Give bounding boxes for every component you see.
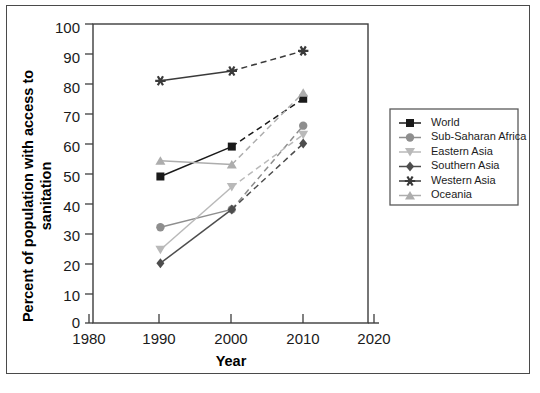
x-tick-label: 2000 bbox=[214, 330, 247, 347]
x-tick-label: 1980 bbox=[72, 330, 105, 347]
data-point-triangle-down bbox=[155, 246, 165, 255]
x-tick-label: 2020 bbox=[357, 330, 390, 347]
data-point-triangle-up bbox=[298, 88, 308, 97]
y-tick-label: 80 bbox=[63, 79, 80, 96]
series-segment bbox=[160, 71, 231, 81]
data-point-star bbox=[298, 46, 308, 55]
x-tick-label: 1990 bbox=[142, 330, 175, 347]
data-point-circle bbox=[156, 223, 164, 231]
x-tick-labels: 1980 1990 2000 2010 2020 bbox=[72, 330, 390, 347]
chart-page: Percent of population with access to san… bbox=[0, 0, 540, 393]
y-tick-label: 90 bbox=[63, 49, 80, 66]
data-point-square bbox=[406, 119, 414, 127]
y-tick-label: 30 bbox=[63, 227, 80, 244]
series-segment bbox=[232, 126, 303, 210]
series-oceania bbox=[155, 88, 308, 168]
series-segment bbox=[232, 135, 303, 187]
data-point-circle bbox=[299, 121, 307, 129]
data-point-star bbox=[227, 66, 237, 75]
y-axis-title-line1: Percent of population with access to bbox=[20, 70, 36, 322]
y-tick-label: 20 bbox=[63, 257, 80, 274]
page-bottom-margin bbox=[0, 377, 540, 393]
x-tick-marks bbox=[89, 314, 374, 323]
legend-item-label: Oceania bbox=[431, 188, 473, 200]
y-tick-label: 40 bbox=[63, 198, 80, 215]
legend-item-label: World bbox=[431, 116, 460, 128]
y-tick-label: 0 bbox=[72, 314, 80, 331]
legend-item-label: Western Asia bbox=[431, 174, 496, 186]
y-axis-title-line2: sanitation bbox=[38, 162, 54, 230]
figure-frame: Percent of population with access to san… bbox=[6, 5, 530, 374]
legend-item-label: Southern Asia bbox=[431, 159, 500, 171]
x-tick-label: 2010 bbox=[286, 330, 319, 347]
y-tick-label: 70 bbox=[63, 108, 80, 125]
line-chart: Percent of population with access to san… bbox=[7, 6, 529, 373]
data-point-circle bbox=[406, 133, 414, 141]
series-segment bbox=[232, 99, 303, 147]
legend-item-label: Eastern Asia bbox=[431, 145, 494, 157]
y-tick-label: 60 bbox=[63, 138, 80, 155]
data-point-star bbox=[155, 76, 165, 85]
legend-item-label: Sub-Saharan Africa bbox=[431, 130, 527, 142]
x-axis-title: Year bbox=[216, 353, 247, 369]
y-tick-labels: 100 90 80 70 60 50 40 30 20 10 0 bbox=[55, 19, 80, 331]
series-sub-saharan-africa bbox=[156, 121, 307, 231]
y-tick-label: 50 bbox=[63, 168, 80, 185]
y-axis-title: Percent of population with access to san… bbox=[20, 70, 54, 322]
y-tick-label: 100 bbox=[55, 19, 80, 36]
series-southern-asia bbox=[156, 139, 307, 269]
data-point-diamond bbox=[156, 258, 164, 268]
y-tick-marks bbox=[85, 24, 93, 323]
series-segment bbox=[232, 51, 303, 71]
data-series-layer bbox=[155, 46, 308, 268]
legend: WorldSub-Saharan AfricaEastern AsiaSouth… bbox=[390, 109, 527, 205]
data-point-square bbox=[228, 143, 236, 151]
data-point-square bbox=[156, 172, 164, 180]
series-western-asia bbox=[155, 46, 308, 85]
y-tick-label: 10 bbox=[63, 287, 80, 304]
